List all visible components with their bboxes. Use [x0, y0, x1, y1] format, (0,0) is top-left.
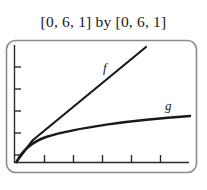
curve-label-g: g — [165, 98, 172, 113]
graphing-window-figure: [0, 6, 1] by [0, 6, 1] — [0, 0, 207, 190]
graph-canvas: f g — [0, 36, 207, 181]
graph-area: f g — [0, 36, 207, 181]
viewing-window-title: [0, 6, 1] by [0, 6, 1] — [0, 13, 207, 31]
